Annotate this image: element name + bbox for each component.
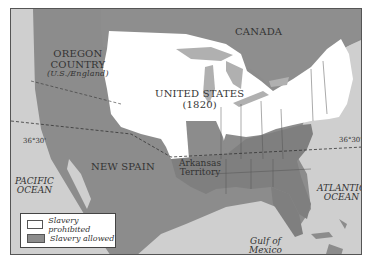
label-arkansas-territory: Arkansas Territory <box>179 159 221 178</box>
map-legend: Slavery prohibited Slavery allowed <box>20 213 116 248</box>
label-latitude-east: 36°30' <box>339 136 362 144</box>
label-new-spain: NEW SPAIN <box>91 162 155 173</box>
gulf-line2: Mexico <box>249 246 282 255</box>
pacific-line2: OCEAN <box>15 186 54 195</box>
arkansas-line2: Territory <box>179 168 221 177</box>
legend-label-allowed: Slavery allowed <box>50 234 114 243</box>
label-canada: CANADA <box>235 27 282 38</box>
legend-swatch-allowed <box>27 234 45 243</box>
legend-item-allowed: Slavery allowed <box>27 233 114 244</box>
us-line1: UNITED STATES <box>155 89 244 100</box>
oregon-sub: (U.S./England) <box>47 70 109 78</box>
label-united-states: UNITED STATES (1820) <box>155 89 244 110</box>
atlantic-line2: OCEAN <box>317 193 362 202</box>
us-line2: (1820) <box>155 100 244 111</box>
label-atlantic-ocean: ATLANTIC OCEAN <box>317 184 362 203</box>
label-pacific-ocean: PACIFIC OCEAN <box>15 177 54 196</box>
label-latitude-west: 36°30' <box>23 137 46 145</box>
label-gulf-of-mexico: Gulf of Mexico <box>249 237 282 255</box>
legend-label-prohibited: Slavery prohibited <box>48 216 115 234</box>
legend-swatch-prohibited <box>27 220 43 229</box>
legend-item-prohibited: Slavery prohibited <box>27 219 115 230</box>
caribbean-islands <box>311 219 347 255</box>
oregon-line1: OREGON <box>47 49 109 60</box>
label-oregon-country: OREGON COUNTRY (U.S./England) <box>47 49 109 78</box>
